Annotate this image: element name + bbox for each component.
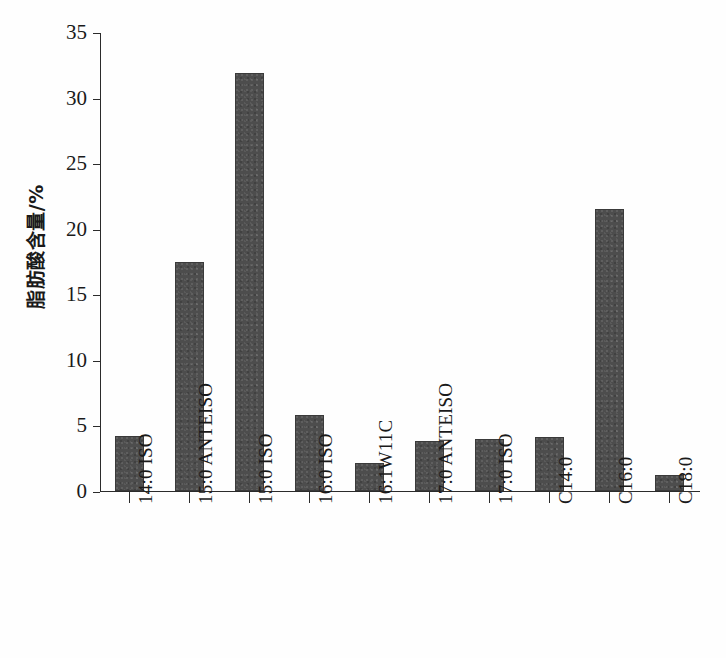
x-axis-label-text: 15:0 ISO <box>256 433 275 504</box>
y-axis-tick: 10 <box>93 361 100 362</box>
y-axis-tick-label: 15 <box>66 284 87 305</box>
y-axis-tick-label: 5 <box>77 415 88 436</box>
chart-figure: 脂肪酸含量/% 05101520253035 14:0 ISO15:0 ANTE… <box>0 0 726 658</box>
y-axis-tick-label: 10 <box>66 350 87 371</box>
x-axis-label-text: 16:0 ISO <box>316 433 335 504</box>
x-axis-tick <box>369 492 370 503</box>
x-axis-label-text: C16:0 <box>616 457 635 504</box>
y-axis-title: 脂肪酸含量/% <box>14 0 54 492</box>
y-axis-tick-label: 20 <box>66 219 87 240</box>
plot-area: 05101520253035 <box>100 33 700 492</box>
y-axis-tick-label: 0 <box>77 481 88 502</box>
y-axis-tick: 20 <box>93 230 100 231</box>
x-axis-label-text: 16:1W11C <box>376 420 395 504</box>
x-axis-tick <box>309 492 310 503</box>
x-axis-label-text: 14:0 ISO <box>136 433 155 504</box>
y-axis-title-text: 脂肪酸含量/% <box>21 184 48 308</box>
y-axis-tick: 5 <box>93 426 100 427</box>
y-axis-tick-label: 35 <box>66 22 87 43</box>
x-axis-tick <box>549 492 550 503</box>
x-axis-label-text: 15:0 ANTEISO <box>196 383 215 504</box>
y-axis-tick: 0 <box>93 492 100 493</box>
y-axis-tick: 25 <box>93 164 100 165</box>
x-axis-label-text: C18:0 <box>676 457 695 504</box>
x-axis-tick <box>489 492 490 503</box>
x-axis-label-text: 17:0 ANTEISO <box>436 383 455 504</box>
x-axis-tick <box>609 492 610 503</box>
x-axis-label-text: C14:0 <box>556 457 575 504</box>
x-axis-tick <box>129 492 130 503</box>
x-axis-tick <box>429 492 430 503</box>
y-axis-line <box>100 33 101 492</box>
bar <box>595 209 624 491</box>
x-axis-tick <box>189 492 190 503</box>
x-axis-line <box>100 491 700 492</box>
x-axis-label-text: 17:0 ISO <box>496 433 515 504</box>
y-axis-tick-label: 25 <box>66 153 87 174</box>
y-axis-tick: 35 <box>93 33 100 34</box>
y-axis-tick: 15 <box>93 295 100 296</box>
y-axis-tick: 30 <box>93 99 100 100</box>
y-axis-tick-label: 30 <box>66 88 87 109</box>
bar <box>235 73 264 491</box>
x-axis-tick <box>669 492 670 503</box>
x-axis-tick <box>249 492 250 503</box>
